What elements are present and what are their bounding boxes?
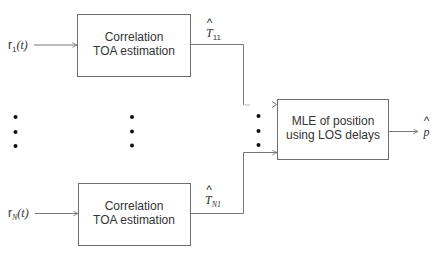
label-tN1: ^ TN1 — [205, 183, 221, 209]
ellipsis-inputs — [14, 115, 18, 148]
input-rN-label: rN(t) — [8, 206, 29, 222]
correlation-block-1: Correlation TOA estimation — [78, 15, 191, 77]
ellipsis-blocks — [130, 115, 134, 148]
input-rN-arg: (t) — [17, 206, 28, 220]
label-tN1-sub: N1 — [211, 200, 221, 209]
correlation-block-1-line-2: TOA estimation — [93, 44, 175, 58]
svg-text:rN(t): rN(t) — [8, 206, 29, 222]
label-t11-sub: 11 — [213, 33, 222, 42]
mle-block-line-2: using LOS delays — [286, 128, 380, 142]
output-p-base: p — [423, 125, 430, 139]
mle-position-block: MLE of position using LOS delays — [278, 100, 389, 160]
output-p-label: ^ p — [423, 114, 430, 139]
svg-text:r1(t): r1(t) — [8, 38, 28, 54]
wire-tN1 — [191, 153, 277, 214]
arrowhead-t11-into-mle — [272, 102, 277, 108]
input-r1-label: r1(t) — [8, 38, 28, 54]
toa-positioning-block-diagram: r1(t) Correlation TOA estimation ^ T11 r… — [0, 0, 443, 255]
correlation-block-1-line-1: Correlation — [105, 30, 164, 44]
svg-text:T11: T11 — [206, 26, 222, 42]
wire-t11 — [191, 45, 244, 106]
correlation-block-N-line-1: Correlation — [105, 199, 164, 213]
label-t11: ^ T11 — [206, 16, 222, 42]
input-r1-arg: (t) — [16, 38, 27, 52]
correlation-block-N-line-2: TOA estimation — [93, 213, 175, 227]
svg-text:TN1: TN1 — [205, 193, 221, 209]
mle-block-line-1: MLE of position — [292, 114, 375, 128]
correlation-block-N: Correlation TOA estimation — [79, 184, 191, 246]
ellipsis-delays — [257, 114, 261, 147]
